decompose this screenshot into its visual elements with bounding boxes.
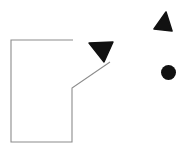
- filled-circle-dot[interactable]: [161, 65, 176, 80]
- scene-svg: [0, 0, 189, 153]
- diagram-canvas: [0, 0, 189, 153]
